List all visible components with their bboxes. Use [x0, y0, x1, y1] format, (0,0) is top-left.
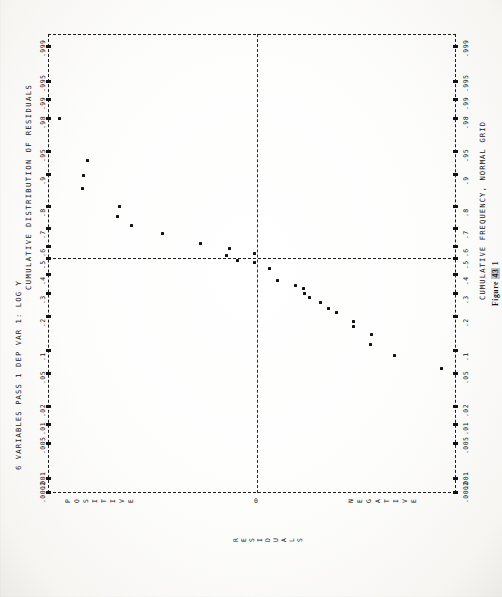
data-point — [253, 261, 256, 264]
tick-right-.2 — [453, 315, 458, 318]
data-point — [276, 279, 279, 282]
residuals-axis-label: RESIDUALS — [232, 536, 304, 544]
tick-label-left-.99: .99 — [39, 97, 47, 110]
tick-label-left-.6: .6 — [39, 248, 47, 257]
tick-label-right-.01: .01 — [462, 422, 470, 435]
tick-label-left-.4: .4 — [39, 276, 47, 285]
data-point — [303, 292, 306, 295]
stacked-letter: A — [280, 536, 288, 544]
tick-right-.001 — [453, 477, 458, 480]
tick-right-.01 — [453, 423, 458, 426]
tick-right-.05 — [453, 372, 458, 375]
data-point — [335, 311, 338, 314]
tick-label-left-.98: .98 — [39, 116, 47, 129]
tick-right-.6 — [453, 245, 458, 248]
stacked-letter: E — [240, 536, 248, 544]
right-axis-title: CUMULATIVE FREQUENCY, NORMAL GRID — [478, 121, 487, 300]
data-point — [118, 205, 121, 208]
tick-right-.9 — [453, 173, 458, 176]
tick-label-right-.9: .9 — [462, 176, 470, 185]
stacked-letter: A — [374, 497, 382, 506]
tick-right-.005 — [453, 442, 458, 445]
stacked-letter: P — [64, 497, 72, 506]
tick-label-right-.5: .5 — [462, 260, 470, 269]
stacked-letter: R — [232, 536, 240, 544]
tick-label-right-.3: .3 — [462, 295, 470, 304]
stacked-letter: L — [288, 536, 296, 544]
tick-right-.995 — [453, 80, 458, 83]
page-header-text: 6 VARIABLES PASS 1 DEP VAR 1: LOG Y — [14, 280, 23, 470]
data-point — [86, 159, 89, 162]
tick-right-.999 — [453, 45, 458, 48]
stacked-letter: E — [127, 497, 135, 506]
tick-right-.4 — [453, 273, 458, 276]
data-point — [440, 367, 443, 370]
stacked-letter: S — [82, 497, 90, 506]
tick-label-right-.98: .98 — [462, 116, 470, 129]
tick-label-right-.995: .995 — [462, 75, 470, 92]
data-point — [319, 301, 322, 304]
data-point — [236, 259, 239, 262]
data-point — [352, 325, 355, 328]
stacked-letter: E — [410, 497, 418, 506]
tick-label-left-.1: .1 — [39, 352, 47, 361]
stacked-letter: S — [296, 536, 304, 544]
stacked-letter: E — [356, 497, 364, 506]
plot-frame-top — [48, 34, 456, 35]
figure-caption-prefix: Figure — [491, 279, 500, 306]
median-reference-line — [48, 258, 456, 259]
tick-label-right-.7: .7 — [462, 230, 470, 239]
stacked-letter: N — [347, 497, 355, 506]
zero-axis-label: 0 — [254, 497, 258, 505]
tick-label-left-.005: .005 — [39, 437, 47, 454]
data-point — [116, 215, 119, 218]
scanned-page: 6 VARIABLES PASS 1 DEP VAR 1: LOG Y CUMU… — [0, 0, 502, 597]
stacked-letter: S — [248, 536, 256, 544]
data-point — [130, 224, 133, 227]
tick-label-left-.999: .999 — [39, 40, 47, 57]
tick-right-.7 — [453, 227, 458, 230]
plot-frame-bottom — [48, 492, 456, 493]
tick-label-right-.2: .2 — [462, 318, 470, 327]
tick-label-right-.99: .99 — [462, 97, 470, 110]
data-point — [327, 307, 330, 310]
tick-right-.98 — [453, 117, 458, 120]
stacked-letter: V — [401, 497, 409, 506]
data-point — [294, 284, 297, 287]
tick-label-right-.999: .999 — [462, 40, 470, 57]
tick-label-left-.05: .05 — [39, 371, 47, 384]
stacked-letter: O — [73, 497, 81, 506]
tick-label-left-.01: .01 — [39, 422, 47, 435]
data-point — [81, 187, 84, 190]
zero-residual-reference-line — [257, 34, 258, 493]
stacked-letter: G — [365, 497, 373, 506]
negative-axis-label: NEGATIVE — [346, 497, 418, 505]
data-point — [370, 333, 373, 336]
stacked-letter: I — [256, 536, 264, 544]
tick-label-left-.02: .02 — [39, 404, 47, 417]
stacked-letter: V — [118, 497, 126, 506]
tick-right-.0002 — [453, 491, 458, 494]
tick-label-left-.8: .8 — [39, 208, 47, 217]
data-point — [393, 354, 396, 357]
probability-plot: .999.995.99.98.95.9.8.7.6.5.4.3.2.1.05.0… — [48, 34, 456, 493]
stacked-letter: D — [264, 536, 272, 544]
data-point — [82, 174, 85, 177]
data-point — [302, 287, 305, 290]
tick-right-.95 — [453, 150, 458, 153]
tick-label-right-.4: .4 — [462, 276, 470, 285]
tick-label-left-.995: .995 — [39, 75, 47, 92]
data-point — [268, 267, 271, 270]
stacked-letter: I — [91, 497, 99, 506]
tick-right-.99 — [453, 98, 458, 101]
tick-label-left-.2: .2 — [39, 318, 47, 327]
tick-label-right-.05: .05 — [462, 371, 470, 384]
stacked-letter: I — [392, 497, 400, 506]
data-point — [199, 242, 202, 245]
stacked-letter: T — [383, 497, 391, 506]
tick-label-right-.005: .005 — [462, 437, 470, 454]
data-point — [161, 232, 164, 235]
tick-label-right-.0002: .0002 — [462, 481, 470, 503]
tick-label-right-.95: .95 — [462, 149, 470, 162]
tick-label-left-.5: .5 — [39, 260, 47, 269]
